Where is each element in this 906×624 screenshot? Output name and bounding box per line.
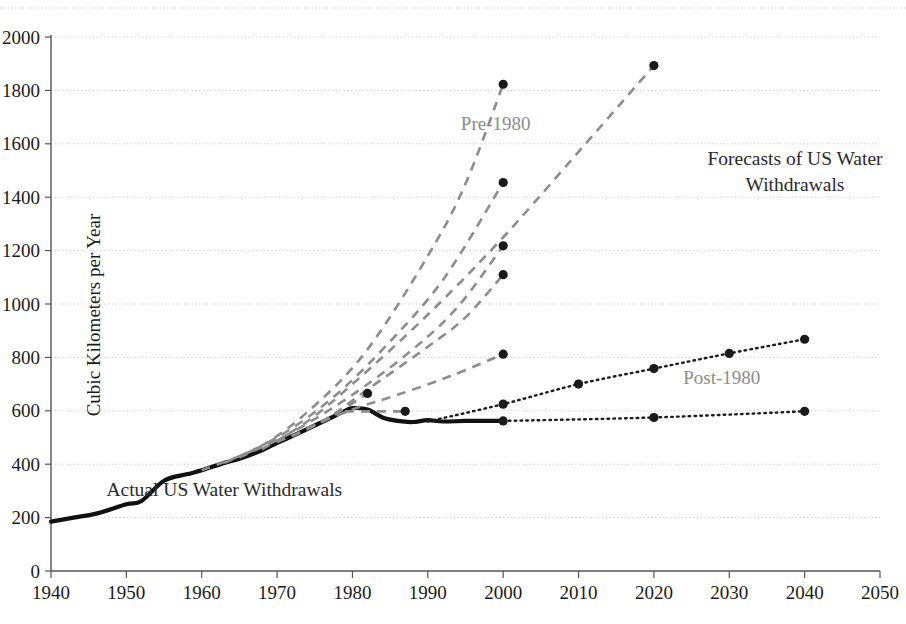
series-path-4: [239, 246, 503, 458]
pre-1980-label: Pre-1980: [461, 113, 531, 134]
x-tick-label-1970: 1970: [258, 582, 296, 603]
series-path-0: [51, 408, 503, 522]
data-point-marker-3: [499, 241, 508, 250]
data-point-marker-8: [499, 400, 508, 409]
series-path-2: [262, 66, 654, 450]
y-tick-label-200: 200: [12, 507, 41, 528]
data-point-marker-6: [363, 389, 372, 398]
data-point-marker-15: [800, 407, 809, 416]
y-tick-label-1600: 1600: [2, 133, 40, 154]
y-tick-label-1800: 1800: [2, 80, 40, 101]
actual-label: Actual US Water Withdrawals: [106, 479, 342, 500]
data-point-marker-11: [725, 349, 734, 358]
y-tick-labels: 0200400600800100012001400160018002000: [2, 27, 40, 582]
data-point-marker-10: [649, 364, 658, 373]
data-point-marker-1: [649, 61, 658, 70]
data-point-marker-9: [574, 380, 583, 389]
chart-container: 0200400600800100012001400160018002000 19…: [0, 0, 906, 624]
y-axis-title: Cubic Kilometers per Year: [83, 213, 104, 416]
x-tick-label-1940: 1940: [32, 582, 70, 603]
data-point-marker-14: [649, 413, 658, 422]
data-series: [51, 66, 805, 522]
x-tick-label-2050: 2050: [861, 582, 899, 603]
y-tick-label-400: 400: [12, 454, 41, 475]
data-point-marker-13: [499, 416, 508, 425]
chart-title-line-1: Forecasts of US Water: [707, 148, 883, 169]
x-tick-labels: 1940195019601970198019902000201020202030…: [32, 582, 899, 603]
series-path-5: [277, 275, 503, 442]
x-tick-label-1960: 1960: [183, 582, 221, 603]
data-point-marker-2: [499, 178, 508, 187]
post-1980-label: Post-1980: [683, 367, 760, 388]
y-tick-label-2000: 2000: [2, 27, 40, 48]
data-point-marker-5: [499, 350, 508, 359]
data-point-marker-12: [800, 335, 809, 344]
data-point-marker-7: [401, 407, 410, 416]
x-tick-label-1950: 1950: [107, 582, 145, 603]
chart-title-line-2: Withdrawals: [746, 174, 845, 195]
water-withdrawals-chart: 0200400600800100012001400160018002000 19…: [0, 0, 906, 624]
x-tick-label-1980: 1980: [333, 582, 371, 603]
x-tick-label-2030: 2030: [710, 582, 748, 603]
y-tick-label-0: 0: [31, 561, 41, 582]
y-tick-label-800: 800: [12, 347, 41, 368]
x-tick-label-2010: 2010: [560, 582, 598, 603]
y-axis-label: Cubic Kilometers per Year: [83, 213, 104, 416]
x-tick-label-2040: 2040: [786, 582, 824, 603]
data-point-marker-0: [499, 80, 508, 89]
y-tick-label-1200: 1200: [2, 240, 40, 261]
x-tick-label-2020: 2020: [635, 582, 673, 603]
y-tick-label-1400: 1400: [2, 187, 40, 208]
x-tick-label-1990: 1990: [409, 582, 447, 603]
data-point-marker-4: [499, 270, 508, 279]
y-tick-label-1000: 1000: [2, 294, 40, 315]
y-tick-label-600: 600: [12, 400, 41, 421]
chart-title: Forecasts of US WaterWithdrawals: [707, 148, 883, 195]
x-tick-label-2000: 2000: [484, 582, 522, 603]
chart-annotations: Actual US Water WithdrawalsPre-1980Post-…: [106, 113, 883, 500]
